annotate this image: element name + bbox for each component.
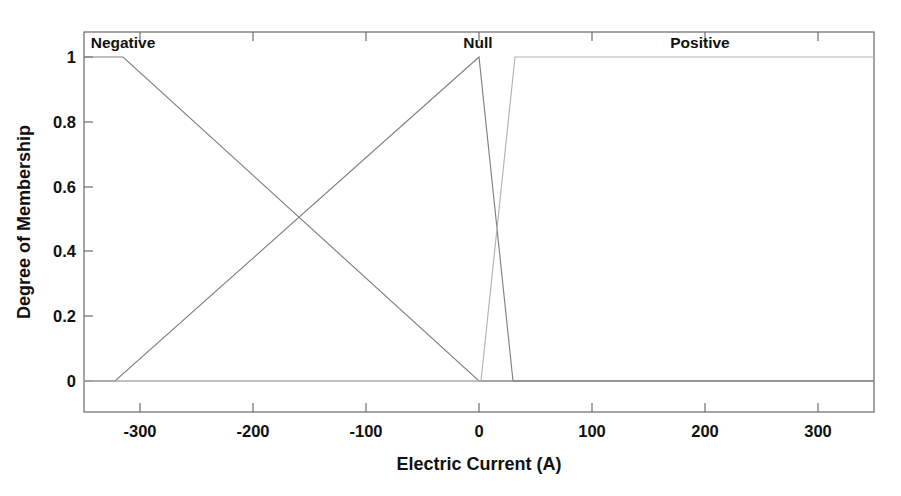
x-tick-label-neg300: -300 (123, 422, 156, 440)
x-axis-title: Electric Current (A) (396, 454, 561, 474)
x-tick-label-200: 200 (691, 422, 719, 440)
series-label-null: Null (463, 34, 492, 51)
fuzzy-membership-chart-figure: 1 0.8 0.6 0.4 0.2 0 -300 -200 -100 0 100… (0, 0, 901, 496)
series-curve-positive (84, 57, 874, 381)
plot-area-frame (84, 32, 874, 412)
y-tick-label-0-4: 0.4 (53, 242, 77, 260)
y-axis-title: Degree of Membership (14, 125, 34, 319)
y-tick-label-0-8: 0.8 (53, 113, 76, 131)
chart-svg: 1 0.8 0.6 0.4 0.2 0 -300 -200 -100 0 100… (0, 0, 901, 496)
x-tick-label-100: 100 (578, 422, 606, 440)
x-axis-ticks (140, 32, 818, 412)
y-tick-label-0-2: 0.2 (53, 307, 76, 325)
y-tick-label-0-6: 0.6 (53, 178, 76, 196)
x-tick-label-300: 300 (804, 422, 832, 440)
series-curve-null (84, 57, 874, 381)
y-axis-ticks (84, 57, 93, 381)
x-tick-label-neg100: -100 (349, 422, 382, 440)
series-label-negative: Negative (91, 34, 156, 51)
series-curve-negative (84, 57, 874, 381)
x-tick-label-0: 0 (474, 422, 483, 440)
series-label-positive: Positive (670, 34, 730, 51)
y-tick-label-1: 1 (67, 48, 76, 66)
x-tick-label-neg200: -200 (236, 422, 269, 440)
y-tick-label-0: 0 (67, 372, 76, 390)
